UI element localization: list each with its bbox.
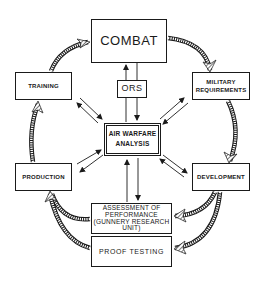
node-assessment-label-4: UNIT) <box>122 225 140 232</box>
node-awa-label-2: ANALYSIS <box>116 141 150 148</box>
node-proof-testing-label: PROOF TESTING <box>99 248 164 255</box>
node-ors-label: ORS <box>121 84 142 93</box>
node-military-label-2: REQUIREMENTS <box>196 87 247 93</box>
node-combat: COMBAT <box>91 19 167 63</box>
node-training: TRAINING <box>15 72 72 100</box>
node-ors: ORS <box>117 80 147 98</box>
node-assessment-of-performance: ASSESSMENT OF PERFORMANCE (GUNNERY RESEA… <box>91 203 172 234</box>
node-training-label: TRAINING <box>28 83 59 89</box>
node-proof-testing: PROOF TESTING <box>91 236 172 267</box>
node-combat-label: COMBAT <box>100 34 158 48</box>
node-production: PRODUCTION <box>15 163 72 191</box>
node-development: DEVELOPMENT <box>192 163 250 191</box>
node-air-warfare-analysis: AIR WARFARE ANALYSIS <box>106 125 159 154</box>
node-military-label-1: MILITARY <box>206 79 235 85</box>
node-development-label: DEVELOPMENT <box>197 174 245 180</box>
node-production-label: PRODUCTION <box>22 174 64 180</box>
node-military-requirements: MILITARY REQUIREMENTS <box>192 72 250 100</box>
node-awa-label-1: AIR WARFARE <box>109 131 157 138</box>
